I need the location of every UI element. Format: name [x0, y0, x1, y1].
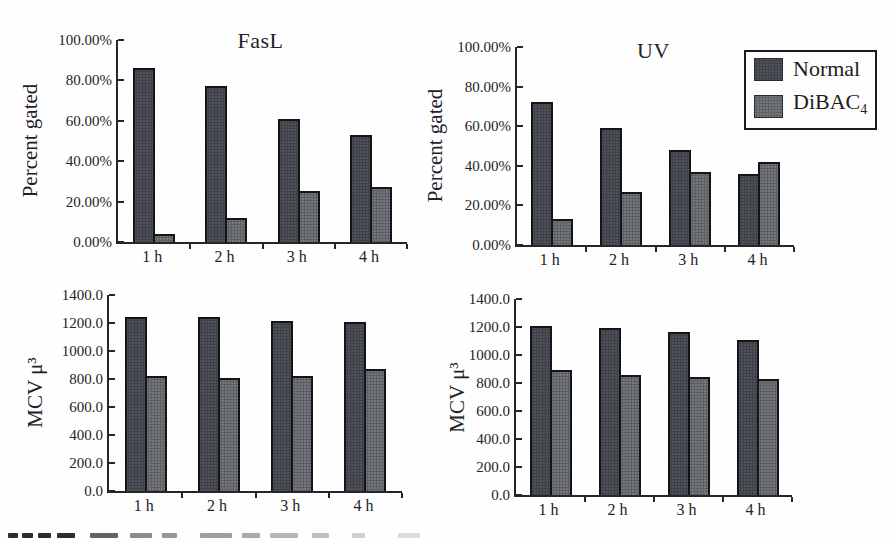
y-tick-label: 1400.0: [27, 286, 103, 304]
y-tick-mark: [516, 354, 522, 356]
figure-page: FasL Percent gated 0.00%20.00%40.00%60.0…: [0, 0, 895, 541]
legend-item-normal: Normal: [754, 57, 875, 81]
y-tick-mark: [517, 86, 523, 88]
bar-group-1h: [516, 299, 585, 495]
bar-group-4h: [329, 295, 402, 491]
x-tick-label: 3 h: [261, 248, 333, 266]
y-tick-label: 0.00%: [435, 236, 511, 254]
x-tick-label: 2 h: [583, 501, 652, 519]
chart-title: FasL: [116, 28, 405, 54]
x-tick-label: 4 h: [333, 248, 405, 266]
y-tick-mark: [109, 294, 115, 296]
y-tick-mark: [517, 165, 523, 167]
bar-normal-3h: [278, 119, 300, 242]
x-tick-label: 3 h: [254, 497, 327, 515]
x-tick-label: 4 h: [723, 251, 792, 269]
plot-area: 0.0200.0400.0600.0800.01000.01200.01400.…: [107, 295, 402, 493]
x-tick-label: 1 h: [107, 497, 180, 515]
y-tick-mark: [118, 160, 124, 162]
y-tick-label: 400.0: [27, 426, 103, 444]
y-tick-label: 600.0: [27, 398, 103, 416]
bar-dibac4-1h: [145, 376, 167, 491]
x-tick-mark: [793, 247, 795, 252]
y-tick-mark: [109, 490, 115, 492]
bar-normal-3h: [669, 150, 691, 245]
x-tick-label: 3 h: [654, 251, 723, 269]
y-tick-mark: [109, 434, 115, 436]
x-tick-mark: [653, 497, 655, 502]
x-tick-label: 2 h: [180, 497, 253, 515]
bar-normal-1h: [530, 326, 552, 495]
y-tick-label: 1400.0: [434, 290, 510, 308]
y-tick-label: 800.0: [27, 370, 103, 388]
y-tick-mark: [118, 201, 124, 203]
x-tick-mark: [189, 244, 191, 249]
bar-dibac4-2h: [218, 378, 240, 491]
y-axis-label: Percent gated: [18, 31, 43, 251]
y-tick-label: 0.0: [27, 482, 103, 500]
legend-label: DiBAC4: [793, 90, 867, 122]
bar-group-3h: [656, 47, 725, 245]
x-tick-mark: [585, 247, 587, 252]
x-tick-mark: [724, 247, 726, 252]
x-tick-mark: [262, 244, 264, 249]
y-tick-mark: [109, 462, 115, 464]
y-tick-mark: [516, 494, 522, 496]
y-tick-label: 100.00%: [36, 31, 112, 49]
legend-swatch: [754, 95, 783, 118]
x-tick-label: 1 h: [515, 251, 584, 269]
y-tick-label: 1200.0: [434, 318, 510, 336]
y-tick-mark: [118, 120, 124, 122]
y-tick-label: 200.0: [434, 458, 510, 476]
x-tick-label: 2 h: [584, 251, 653, 269]
bar-group-2h: [585, 299, 654, 495]
bar-normal-2h: [600, 128, 622, 245]
bar-normal-2h: [198, 317, 220, 491]
x-tick-label: 1 h: [116, 248, 188, 266]
y-tick-mark: [109, 322, 115, 324]
y-tick-label: 800.0: [434, 374, 510, 392]
y-tick-mark: [516, 438, 522, 440]
bar-normal-2h: [205, 86, 227, 242]
bar-group-1h: [118, 40, 190, 242]
bar-normal-4h: [350, 135, 372, 242]
bar-normal-1h: [125, 317, 147, 491]
bar-normal-3h: [668, 332, 690, 495]
y-tick-label: 20.00%: [36, 193, 112, 211]
bar-dibac4-4h: [364, 369, 386, 491]
legend-box: NormalDiBAC4: [744, 50, 877, 130]
bar-group-2h: [586, 47, 655, 245]
y-tick-mark: [109, 406, 115, 408]
y-tick-mark: [517, 125, 523, 127]
x-tick-label: 2 h: [188, 248, 260, 266]
y-tick-label: 1000.0: [27, 342, 103, 360]
x-tick-mark: [722, 497, 724, 502]
y-tick-mark: [517, 244, 523, 246]
y-tick-label: 40.00%: [36, 152, 112, 170]
y-axis-label: Percent gated: [423, 36, 448, 256]
y-tick-label: 600.0: [434, 402, 510, 420]
bar-dibac4-1h: [551, 219, 573, 245]
bar-normal-1h: [133, 68, 155, 242]
bar-normal-4h: [738, 174, 760, 245]
y-tick-label: 1000.0: [434, 346, 510, 364]
y-tick-mark: [109, 378, 115, 380]
y-tick-label: 20.00%: [435, 196, 511, 214]
bar-group-2h: [182, 295, 255, 491]
y-tick-label: 200.0: [27, 454, 103, 472]
bar-group-3h: [654, 299, 723, 495]
x-tick-mark: [328, 493, 330, 498]
x-tick-label: 4 h: [327, 497, 400, 515]
legend-item-dibac: DiBAC4: [754, 90, 875, 122]
y-tick-mark: [118, 39, 124, 41]
x-tick-label: 1 h: [514, 501, 583, 519]
bar-dibac4-3h: [688, 377, 710, 495]
y-tick-label: 0.0: [434, 486, 510, 504]
bar-normal-4h: [344, 322, 366, 491]
bar-group-2h: [190, 40, 262, 242]
y-tick-label: 60.00%: [435, 117, 511, 135]
bar-dibac4-2h: [619, 375, 641, 495]
bar-dibac4-4h: [758, 162, 780, 245]
bar-dibac4-3h: [689, 172, 711, 245]
x-tick-mark: [181, 493, 183, 498]
